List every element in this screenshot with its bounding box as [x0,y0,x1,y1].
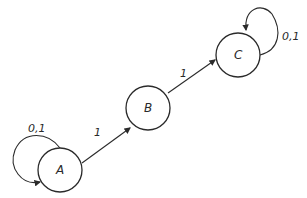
edge-b-to-c-label: 1 [180,67,187,80]
edge-b-to-c: 1 [168,60,215,93]
edge-a-to-b-label: 1 [94,126,101,139]
state-diagram: 1 1 0,1 0,1 A B C [0,0,307,198]
edge-a-to-b: 1 [82,126,130,163]
node-a: A [38,148,82,192]
node-c: C [216,33,260,77]
self-loop-a-label: 0,1 [28,122,46,135]
node-a-label: A [55,163,64,177]
node-b: B [126,86,170,130]
node-b-label: B [144,101,152,115]
self-loop-c-label: 0,1 [282,30,300,43]
node-c-label: C [234,48,243,62]
